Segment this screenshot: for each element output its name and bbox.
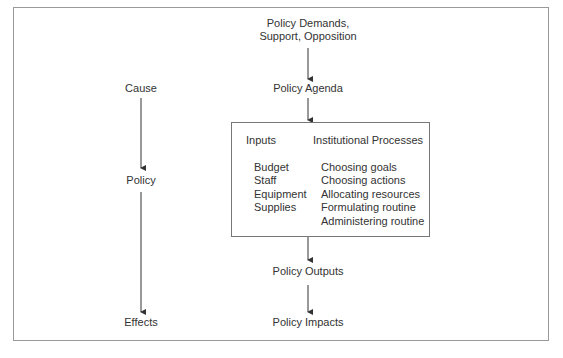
policy-agenda-label: Policy Agenda — [273, 82, 343, 95]
demands-label-line2: Support, Opposition — [259, 30, 356, 43]
policy-outputs-label: Policy Outputs — [273, 265, 344, 278]
processes-header: Institutional Processes — [313, 134, 423, 147]
demands-label-line1: Policy Demands, — [267, 17, 350, 30]
input-item: Budget — [254, 161, 289, 174]
policy-impacts-label: Policy Impacts — [273, 316, 344, 329]
process-item: Formulating routine — [321, 201, 416, 214]
effects-label: Effects — [124, 316, 157, 329]
policy-label: Policy — [126, 174, 155, 187]
input-item: Supplies — [254, 201, 296, 214]
process-item: Choosing goals — [321, 161, 397, 174]
inputs-header: Inputs — [246, 134, 276, 147]
input-item: Equipment — [254, 188, 307, 201]
process-item: Choosing actions — [321, 174, 405, 187]
process-item: Administering routine — [321, 215, 424, 228]
cause-label: Cause — [125, 82, 157, 95]
input-item: Staff — [254, 174, 276, 187]
process-item: Allocating resources — [321, 188, 420, 201]
